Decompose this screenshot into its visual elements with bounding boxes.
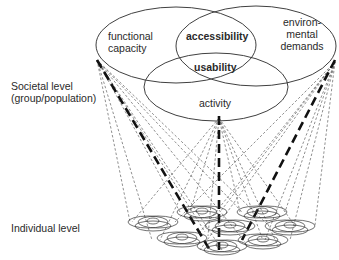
functional-line: functional [108, 30, 153, 42]
societal-level-label: Societal level (group/population) [11, 80, 96, 104]
individual-clusters [128, 206, 315, 255]
activity-label: activity [199, 97, 231, 109]
environmental-demands-label: environ- mental demands [272, 16, 332, 52]
mental-line: mental [272, 28, 332, 40]
group-population-line: (group/population) [11, 92, 96, 104]
demands-line: demands [272, 40, 332, 52]
accessibility-label: accessibility [186, 30, 248, 42]
usability-label: usability [194, 61, 237, 73]
individual-level-label: Individual level [11, 222, 80, 234]
environ-line: environ- [272, 16, 332, 28]
functional-capacity-label: functional capacity [108, 30, 153, 54]
societal-line: Societal level [11, 80, 96, 92]
capacity-line: capacity [108, 42, 153, 54]
highlight-lines [97, 60, 335, 252]
